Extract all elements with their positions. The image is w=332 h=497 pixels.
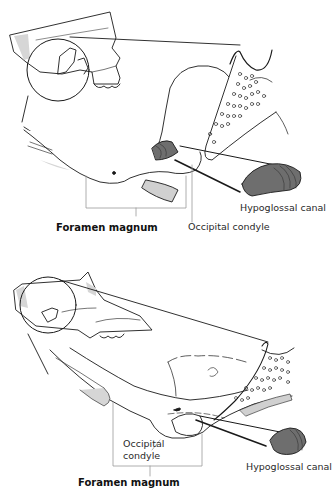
label-foramen-magnum-top: Foramen magnum <box>56 222 158 234</box>
bottom-panel: Occipital condyle Hypoglossal canal Fora… <box>0 250 324 497</box>
label-occipital-condyle-top: Occipital condyle <box>188 222 270 233</box>
label-foramen-magnum-bottom: Foramen magnum <box>78 477 180 489</box>
bottom-skull-illustration <box>0 250 324 497</box>
label-occipital-condyle-bottom-line2: condyle <box>123 451 160 462</box>
skull-inset <box>14 272 152 338</box>
label-hypoglossal-canal-bottom: Hypoglossal canal <box>246 462 332 473</box>
top-panel: Hypoglossal canal Occipital condyle Fora… <box>0 0 324 250</box>
occipital-bone <box>50 342 294 438</box>
label-hypoglossal-canal-top: Hypoglossal canal <box>240 203 326 214</box>
skull-inset <box>10 12 120 88</box>
label-occipital-condyle-bottom-line1: Occipital <box>123 439 164 450</box>
